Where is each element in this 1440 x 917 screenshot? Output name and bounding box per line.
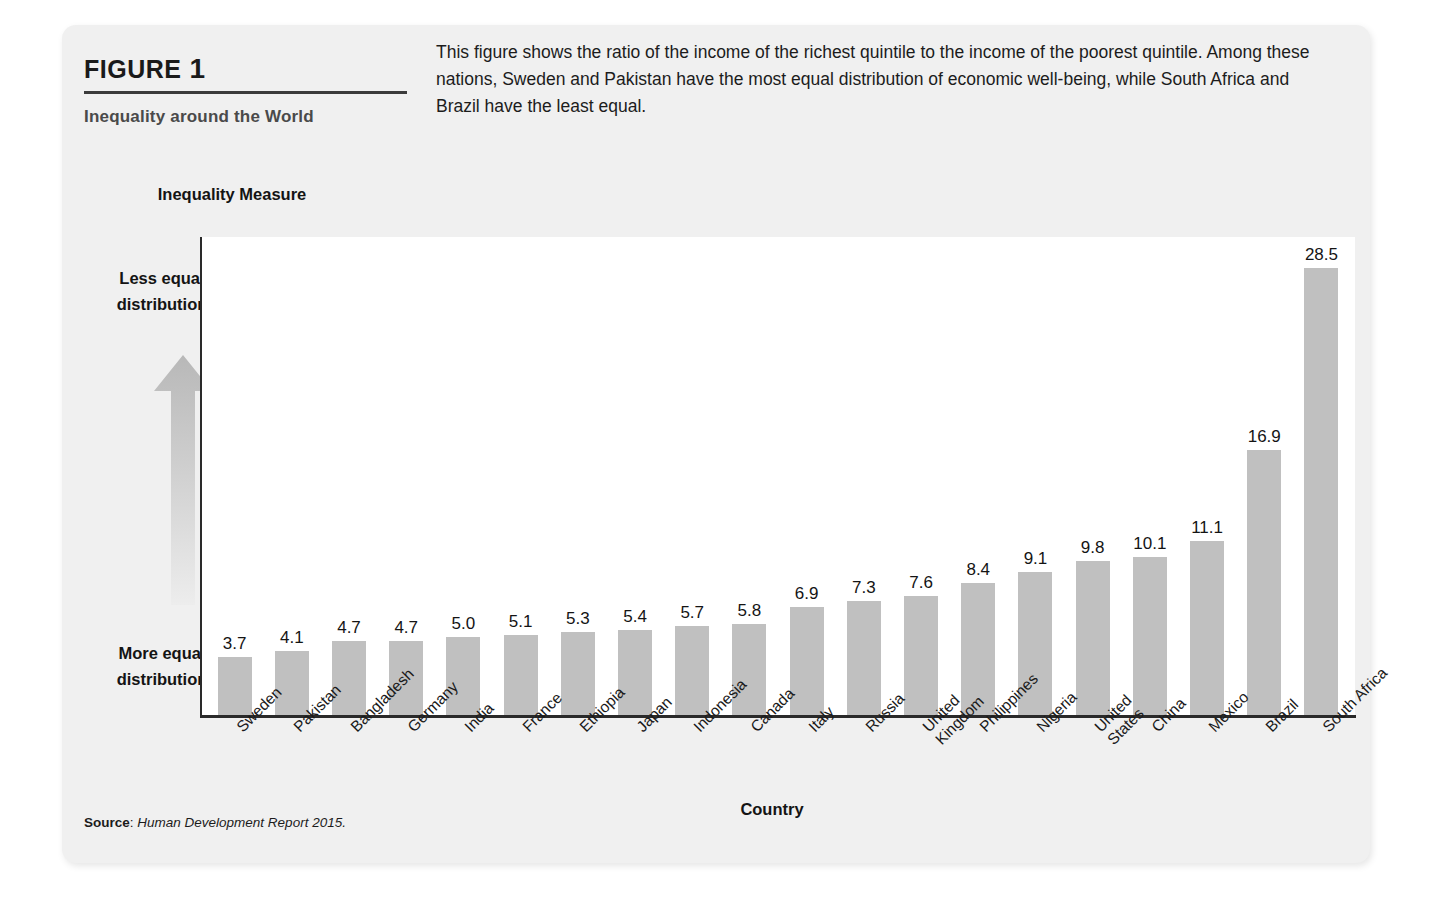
bar — [561, 632, 595, 715]
bar-slot: 5.7 — [664, 237, 721, 715]
bar-value-label: 6.9 — [795, 584, 819, 603]
bar-slot: 5.1 — [492, 237, 549, 715]
bar — [847, 601, 881, 715]
x-tick-slot: South Africa — [1293, 719, 1350, 809]
bar-slot: 4.1 — [263, 237, 320, 715]
figure-label-text: FIGURE — [84, 55, 181, 83]
source-label: Source — [84, 815, 130, 830]
x-tick-labels: SwedenPakistanBangladeshGermanyIndiaFran… — [202, 719, 1354, 809]
bar-value-label: 7.6 — [909, 573, 933, 592]
bar-value-label: 4.7 — [394, 618, 418, 637]
bar-value-label: 9.8 — [1081, 538, 1105, 557]
bar-slot: 7.6 — [892, 237, 949, 715]
figure-label: FIGURE1 — [84, 53, 206, 85]
bar — [446, 637, 480, 715]
y-axis-title: Inequality Measure — [152, 183, 312, 205]
bar-value-label: 5.8 — [738, 601, 762, 620]
x-tick-slot: Italy — [778, 719, 835, 809]
bar-slot: 9.8 — [1064, 237, 1121, 715]
figure-number: 1 — [189, 53, 205, 84]
bar-value-label: 10.1 — [1133, 534, 1166, 553]
bar — [732, 624, 766, 715]
x-tick-slot: India — [435, 719, 492, 809]
bar-value-label: 4.1 — [280, 628, 304, 647]
bar — [504, 635, 538, 715]
x-tick-slot: Russia — [835, 719, 892, 809]
bar-value-label: 16.9 — [1248, 427, 1281, 446]
bar-slot: 5.8 — [721, 237, 778, 715]
bar-slot: 8.4 — [950, 237, 1007, 715]
bar-slot: 4.7 — [378, 237, 435, 715]
x-tick-slot: Germany — [378, 719, 435, 809]
x-tick-slot: Mexico — [1178, 719, 1235, 809]
bar-slot: 9.1 — [1007, 237, 1064, 715]
bar-slot: 10.1 — [1121, 237, 1178, 715]
bar — [218, 657, 252, 715]
bar-value-label: 4.7 — [337, 618, 361, 637]
bar — [675, 626, 709, 715]
bar — [904, 596, 938, 715]
bar-slot: 6.9 — [778, 237, 835, 715]
bar — [1190, 541, 1224, 715]
bar-slot: 5.3 — [549, 237, 606, 715]
x-tick-slot: France — [492, 719, 549, 809]
bar-slot: 28.5 — [1293, 237, 1350, 715]
bar — [618, 630, 652, 715]
bar — [332, 641, 366, 715]
x-tick-slot: United States — [1064, 719, 1121, 809]
x-tick-slot: China — [1121, 719, 1178, 809]
bar-slot: 16.9 — [1236, 237, 1293, 715]
x-tick-slot: Pakistan — [263, 719, 320, 809]
bar-value-label: 8.4 — [966, 560, 990, 579]
bar-value-label: 7.3 — [852, 578, 876, 597]
page-root: FIGURE1 Inequality around the World This… — [0, 0, 1440, 917]
bar-value-label: 5.0 — [452, 614, 476, 633]
bar-value-label: 9.1 — [1024, 549, 1048, 568]
x-tick-slot: United Kingdom — [892, 719, 949, 809]
x-tick-slot: Sweden — [206, 719, 263, 809]
source-note: Source: Human Development Report 2015. — [84, 815, 346, 830]
source-text: Human Development Report 2015. — [137, 815, 346, 830]
figure-subtitle: Inequality around the World — [84, 107, 314, 127]
x-tick-slot: Indonesia — [664, 719, 721, 809]
bar-value-label: 3.7 — [223, 634, 247, 653]
x-tick-slot: Canada — [721, 719, 778, 809]
x-tick-slot: Philippines — [950, 719, 1007, 809]
bar — [1247, 450, 1281, 715]
bar — [1076, 561, 1110, 715]
figure-card: FIGURE1 Inequality around the World This… — [62, 25, 1370, 863]
bar-slot: 7.3 — [835, 237, 892, 715]
x-tick-slot: Nigeria — [1007, 719, 1064, 809]
bar — [1304, 268, 1338, 715]
x-axis-title: Country — [622, 800, 922, 819]
bar-value-label: 5.7 — [680, 603, 704, 622]
x-tick-slot: Brazil — [1236, 719, 1293, 809]
figure-divider — [84, 91, 407, 94]
bar-slot: 11.1 — [1178, 237, 1235, 715]
bar-value-label: 5.1 — [509, 612, 533, 631]
x-tick-slot: Ethiopia — [549, 719, 606, 809]
bar-value-label: 5.3 — [566, 609, 590, 628]
bar-slot: 5.4 — [606, 237, 663, 715]
bar-series: 3.74.14.74.75.05.15.35.45.75.86.97.37.68… — [202, 237, 1354, 715]
bar-value-label: 5.4 — [623, 607, 647, 626]
x-tick-slot: Japan — [606, 719, 663, 809]
bar-slot: 4.7 — [320, 237, 377, 715]
figure-description: This figure shows the ratio of the incom… — [436, 39, 1324, 120]
bar-slot: 3.7 — [206, 237, 263, 715]
x-tick-slot: Bangladesh — [320, 719, 377, 809]
bar-value-label: 28.5 — [1305, 245, 1338, 264]
bar-slot: 5.0 — [435, 237, 492, 715]
bar — [275, 651, 309, 715]
bar-value-label: 11.1 — [1191, 518, 1223, 537]
